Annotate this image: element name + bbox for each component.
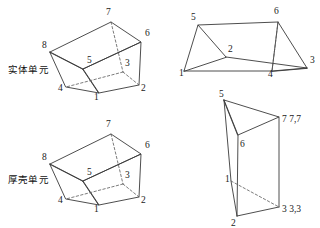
wedge-edge-2-3 [226,57,307,68]
node-label-4: 4 [268,69,273,79]
degen-edge-2-3 [237,207,279,216]
degen-hidden-edge-1-3 [231,181,279,207]
node-label-5: 5 [191,12,196,22]
node-label-5: 5 [219,89,224,99]
node-label-7: 7 [106,7,111,17]
node-label-2: 2 [228,44,233,54]
node-label-1: 1 [179,68,184,78]
thick-shell-element-caption: 厚壳单元 [8,172,49,186]
degen-hex-node-labels: 5 6 1 2 [219,89,245,228]
solid-element-caption: 实体单元 [8,62,49,76]
collapsed-node-label-777: 7 7,7 [282,114,301,124]
wedge-edge-1-4-3 [184,68,307,71]
node-label-4: 4 [58,195,63,205]
node-label-6: 6 [145,140,150,150]
node-label-1: 1 [94,92,99,102]
wedge-node-labels: 5 6 2 3 1 4 [179,6,315,79]
wedge-prism [184,22,307,71]
node-label-8: 8 [42,152,47,162]
degen-top-triangle-face [224,100,279,135]
node-label-3: 3 [310,55,315,65]
node-label-1: 1 [94,204,99,214]
shell-hex-front-right-face [83,154,141,205]
solid-hex-hidden-edge-3-4 [66,72,123,87]
shell-hex-hidden-edge-3-2 [123,184,139,197]
node-label-3: 3 [125,170,130,180]
node-label-2: 2 [141,195,146,205]
solid-hex-hidden-edge-7-3 [111,22,123,72]
node-label-4: 4 [58,83,63,93]
node-label-2: 2 [141,83,146,93]
degen-edge-5-6-2 [224,100,238,216]
shell-hex-hidden-edge-3-4 [66,184,123,199]
node-label-1: 1 [225,174,230,184]
node-label-6: 6 [240,139,245,149]
node-label-2: 2 [231,218,236,228]
shell-hex-hidden-edge-7-3 [111,134,123,184]
node-label-8: 8 [42,40,47,50]
diagram-canvas: 7 6 8 5 3 4 1 2 7 6 8 5 3 4 1 2 [0,0,320,228]
wedge-edge-5-6 [198,22,278,25]
wedge-left-triangle-face [184,25,226,71]
node-label-7: 7 [106,119,111,129]
degen-hex-collapsed-labels: 7 7,7 3 3,3 [282,114,301,214]
node-label-6: 6 [145,28,150,38]
collapsed-node-label-333: 3 3,3 [282,204,301,214]
node-label-6: 6 [274,6,279,16]
degenerate-hexahedron [224,100,279,216]
node-label-5: 5 [87,55,92,65]
element-diagram-svg: 7 6 8 5 3 4 1 2 7 6 8 5 3 4 1 2 [0,0,320,228]
node-label-3: 3 [125,58,130,68]
node-label-5: 5 [87,167,92,177]
solid-hex-hidden-edge-3-2 [123,72,139,85]
solid-hex-front-right-face [83,42,141,93]
